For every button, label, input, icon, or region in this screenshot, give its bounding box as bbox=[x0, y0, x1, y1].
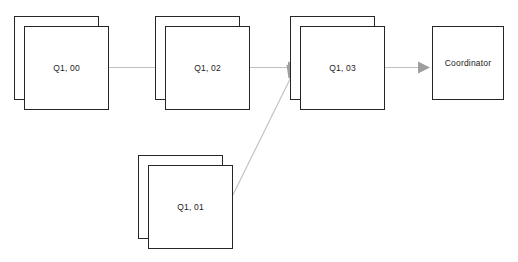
node-label: Coordinator bbox=[445, 59, 492, 68]
node-coordinator[interactable]: Coordinator bbox=[432, 26, 504, 100]
stack-front-sheet: Q1, 00 bbox=[24, 26, 109, 110]
node-label: Q1, 01 bbox=[177, 203, 204, 212]
node-q1-02[interactable]: Q1, 02 bbox=[155, 16, 250, 110]
node-label: Q1, 03 bbox=[329, 64, 356, 73]
stack-front-sheet: Q1, 01 bbox=[148, 165, 233, 249]
node-q1-00[interactable]: Q1, 00 bbox=[14, 16, 109, 110]
stack-front-sheet: Q1, 02 bbox=[165, 26, 250, 110]
diagram-canvas: Q1, 00 Q1, 02 Q1, 03 Q1, 01 Coordinator bbox=[0, 0, 518, 262]
node-q1-03[interactable]: Q1, 03 bbox=[290, 16, 385, 110]
arrowhead-icon bbox=[418, 62, 430, 74]
node-label: Q1, 02 bbox=[194, 64, 221, 73]
node-label: Q1, 00 bbox=[53, 64, 80, 73]
node-q1-01[interactable]: Q1, 01 bbox=[138, 155, 233, 249]
stack-front-sheet: Q1, 03 bbox=[300, 26, 385, 110]
